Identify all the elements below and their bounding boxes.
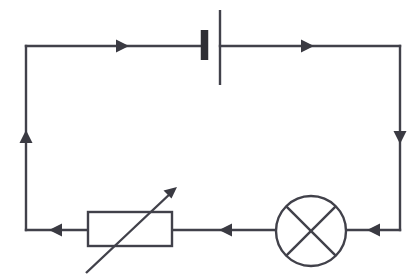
wire-group xyxy=(26,46,400,230)
current-arrow-bottom-left-icon xyxy=(49,224,62,237)
current-arrow-bottom-right-icon xyxy=(367,224,380,237)
current-arrow-right-side-icon xyxy=(394,131,407,144)
current-arrow-top-right-icon xyxy=(301,40,314,53)
cell-battery xyxy=(205,10,221,85)
current-arrow-left-side-icon xyxy=(20,130,33,143)
lamp xyxy=(276,196,346,266)
resistor-body xyxy=(88,212,172,246)
variable-resistor xyxy=(86,187,177,273)
current-arrow-bottom-middle-icon xyxy=(219,224,232,237)
circuit-schematic-canvas xyxy=(0,0,420,279)
current-arrow-top-left-icon xyxy=(116,40,129,53)
current-arrow-group xyxy=(20,40,407,237)
circuit-diagram xyxy=(0,0,420,279)
